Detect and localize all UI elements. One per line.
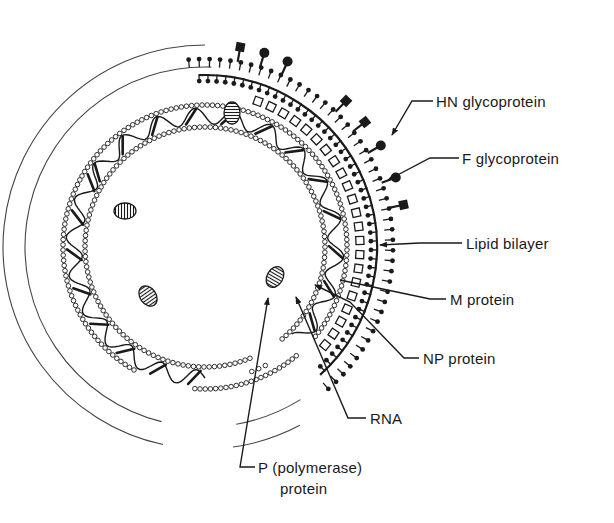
label-p-protein-line1: P (polymerase) xyxy=(258,459,362,476)
nucleocapsid-ring xyxy=(61,103,350,392)
lipid-envelope xyxy=(186,42,409,391)
p-protein-ovals xyxy=(114,102,287,310)
label-m-protein: M protein xyxy=(450,291,514,308)
label-hn-glycoprotein: HN glycoprotein xyxy=(436,93,546,110)
virion-cross-section-figure xyxy=(0,0,614,523)
label-f-glycoprotein: F glycoprotein xyxy=(462,150,559,167)
label-rna: RNA xyxy=(370,410,402,427)
label-np-protein: NP protein xyxy=(423,350,496,367)
label-p-protein-line2: protein xyxy=(280,480,327,497)
label-lipid-bilayer: Lipid bilayer xyxy=(466,235,549,252)
virion-diagram: HN glycoprotein F glycoprotein Lipid bil… xyxy=(0,0,614,523)
